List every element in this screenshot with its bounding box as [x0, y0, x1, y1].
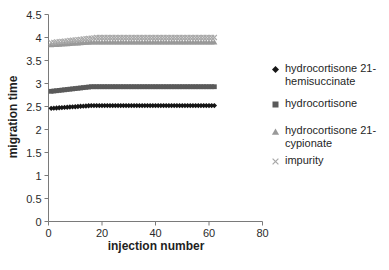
y-axis-title: migration time [6, 76, 20, 159]
series-diamond [48, 103, 217, 111]
y-tick-label: 1.5 [26, 147, 41, 159]
y-tick-label: 3 [35, 78, 41, 90]
chart-figure: 00.511.522.533.544.5020406080 migration … [0, 0, 389, 270]
square-marker-icon [271, 99, 280, 108]
y-tick-label: 1 [35, 170, 41, 182]
legend-label-cypionate: hydrocortisone 21-cypionate [285, 124, 379, 150]
legend-label-impurity: impurity [285, 154, 379, 167]
x-tick-label: 20 [96, 227, 108, 239]
chart-legend: hydrocortisone 21-hemisuccinate hydrocor… [271, 62, 379, 176]
diamond-marker-icon [271, 64, 280, 73]
legend-item-cypionate: hydrocortisone 21-cypionate [271, 124, 379, 150]
x-marker-icon [271, 156, 280, 165]
legend-item-hemisuccinate: hydrocortisone 21-hemisuccinate [271, 62, 379, 88]
legend-item-impurity: impurity [271, 154, 379, 167]
legend-item-hydrocortisone: hydrocortisone [271, 97, 379, 110]
x-tick-label: 40 [149, 227, 161, 239]
y-tick-label: 3.5 [26, 55, 41, 67]
x-tick-label: 80 [256, 227, 268, 239]
y-tick-label: 2.5 [26, 101, 41, 113]
legend-label-hemisuccinate: hydrocortisone 21-hemisuccinate [285, 62, 379, 88]
x-tick-label: 60 [203, 227, 215, 239]
y-tick-label: 0 [35, 216, 41, 228]
y-tick-label: 0.5 [26, 193, 41, 205]
y-tick-label: 4 [35, 32, 41, 44]
x-axis-title: injection number [108, 239, 205, 253]
series-square [49, 84, 217, 93]
y-tick-label: 2 [35, 124, 41, 136]
x-tick-label: 0 [45, 227, 51, 239]
triangle-marker-icon [271, 126, 280, 135]
legend-label-hydrocortisone: hydrocortisone [285, 97, 379, 110]
y-tick-label: 4.5 [26, 9, 41, 21]
